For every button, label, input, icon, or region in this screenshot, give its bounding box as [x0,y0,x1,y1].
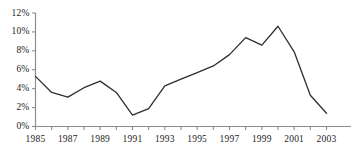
y-axis-tick-label: 8% [16,45,29,55]
y-axis-tick-label: 10% [11,26,29,36]
y-axis-tick-label: 2% [16,102,29,112]
data-series-group [36,26,327,115]
y-axis [32,13,36,127]
y-axis-tick-label: 12% [11,8,29,18]
y-axis-tick-label: 4% [16,83,29,93]
y-axis-tick-label: 0% [16,121,29,131]
series-line [36,26,327,115]
line-chart: 0%2%4%6%8%10%12% 19851987198919911993199… [0,0,357,158]
x-axis-tick-label: 2003 [307,134,347,144]
y-axis-tick-label: 6% [16,64,29,74]
x-axis [36,127,352,131]
